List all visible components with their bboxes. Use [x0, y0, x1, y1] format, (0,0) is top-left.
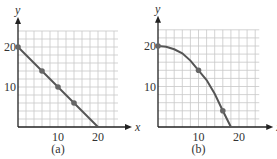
panel-caption: (a)	[51, 142, 64, 156]
chart-panel-b: xy10201020(b)	[144, 2, 277, 156]
data-point	[15, 44, 21, 50]
y-arrow-icon	[155, 16, 161, 23]
x-axis-label: x	[275, 120, 277, 134]
x-tick-label: 20	[92, 130, 104, 144]
data-point	[55, 84, 61, 90]
y-tick-label: 20	[4, 40, 16, 54]
figure: xy10201020(a) xy10201020(b)	[0, 0, 277, 159]
chart-panel-a: xy10201020(a)	[4, 3, 141, 156]
x-axis-label: x	[134, 120, 141, 134]
y-tick-label: 20	[144, 39, 156, 53]
x-tick-label: 20	[233, 130, 245, 144]
panel-caption: (b)	[192, 142, 206, 156]
data-point	[71, 100, 77, 106]
grid	[158, 30, 259, 127]
data-point	[220, 108, 226, 114]
y-axis-label: y	[14, 3, 21, 17]
x-arrow-icon	[125, 124, 132, 130]
y-tick-label: 10	[4, 80, 16, 94]
data-point	[196, 68, 202, 74]
grid	[18, 31, 118, 127]
x-arrow-icon	[266, 124, 273, 130]
y-tick-label: 10	[144, 80, 156, 94]
data-point	[155, 43, 161, 49]
data-point	[39, 68, 45, 74]
y-axis-label: y	[154, 2, 161, 16]
y-arrow-icon	[15, 17, 21, 24]
